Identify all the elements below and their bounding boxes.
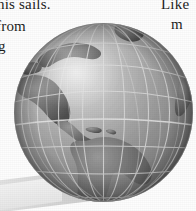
text-fragment-his-sails: his sails. (0, 0, 51, 13)
text-fragment-g: g (0, 38, 6, 55)
scanned-page: his sails. from g Like m (0, 0, 196, 211)
globe-illustration (13, 22, 194, 203)
globe-svg (13, 22, 194, 203)
text-fragment-from: from (0, 18, 26, 35)
text-fragment-like: Like (161, 0, 189, 13)
text-fragment-m: m (171, 16, 183, 33)
